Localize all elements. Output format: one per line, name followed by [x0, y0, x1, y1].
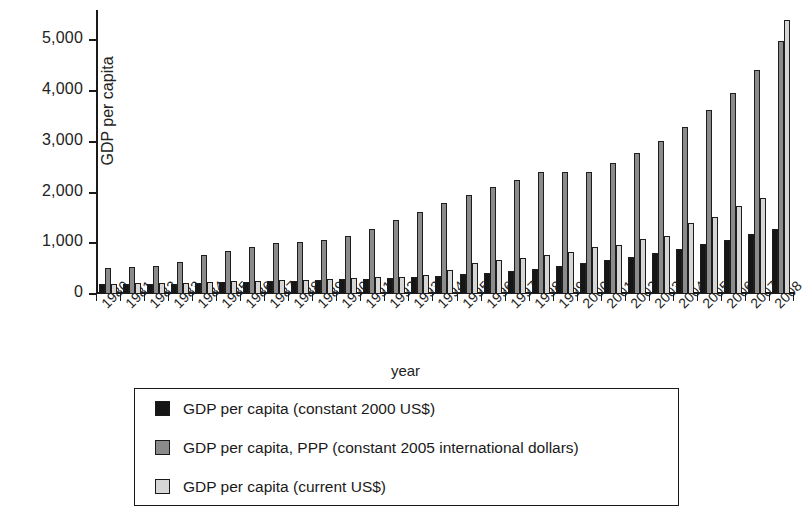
bar-group [460, 10, 478, 294]
y-axis-tick [89, 39, 96, 41]
bar [664, 236, 670, 294]
y-axis-tick-label: 5,000 [0, 29, 83, 47]
bar-group [435, 10, 453, 294]
bar [447, 270, 453, 294]
bar-group [532, 10, 550, 294]
bar [255, 281, 261, 294]
chart-legend: GDP per capita (constant 2000 US$) GDP p… [134, 388, 679, 506]
chart-figure: GDP per capita 01,0002,0003,0004,0005,00… [0, 0, 811, 510]
bar [351, 278, 357, 294]
bar-group [243, 10, 261, 294]
y-axis-tick-label: 3,000 [0, 131, 83, 149]
bar [399, 277, 405, 294]
y-axis-tick [89, 90, 96, 92]
bar-group [387, 10, 405, 294]
bar-group [315, 10, 333, 294]
bar-group [700, 10, 718, 294]
bar [423, 275, 429, 294]
bar-group [508, 10, 526, 294]
bar-group [748, 10, 766, 294]
bar-group [580, 10, 598, 294]
bar [568, 252, 574, 294]
legend-item: GDP per capita (constant 2000 US$) [135, 389, 678, 428]
bar-group [171, 10, 189, 294]
y-axis-tick-label: 4,000 [0, 80, 83, 98]
y-axis-tick [89, 293, 96, 295]
y-axis-tick-label: 2,000 [0, 182, 83, 200]
legend-item-label: GDP per capita, PPP (constant 2005 inter… [183, 439, 579, 457]
bar-group [772, 10, 790, 294]
bar-group [123, 10, 141, 294]
bar-group [724, 10, 742, 294]
bar [712, 217, 718, 294]
y-axis-tick [89, 242, 96, 244]
y-axis-tick-label: 0 [0, 283, 83, 301]
bar [135, 283, 141, 294]
bar [520, 258, 526, 295]
bar-group [267, 10, 285, 294]
bar-group [652, 10, 670, 294]
bar-group [628, 10, 646, 294]
bar-group [219, 10, 237, 294]
y-axis-tick [89, 141, 96, 143]
bar [183, 283, 189, 294]
legend-item-label: GDP per capita (constant 2000 US$) [183, 400, 435, 418]
bar [784, 20, 790, 294]
bar [159, 283, 165, 294]
bar [760, 198, 766, 294]
y-axis-tick-label: 1,000 [0, 232, 83, 250]
bar [231, 281, 237, 294]
bar [616, 245, 622, 294]
legend-item: GDP per capita, PPP (constant 2005 inter… [135, 428, 678, 467]
bar-group [484, 10, 502, 294]
bar [640, 239, 646, 294]
gray-swatch-icon [155, 440, 170, 455]
x-axis-tick [96, 294, 97, 301]
bar [592, 247, 598, 294]
light-gray-swatch-icon [155, 479, 170, 494]
bar [736, 206, 742, 294]
bar-group [195, 10, 213, 294]
bar [496, 260, 502, 294]
bar [111, 284, 117, 294]
y-axis-tick [89, 192, 96, 194]
bar-group [99, 10, 117, 294]
x-axis-title: year [0, 362, 811, 379]
bar [688, 223, 694, 295]
bar-group [363, 10, 381, 294]
bar-group [556, 10, 574, 294]
bar [375, 277, 381, 294]
legend-item-label: GDP per capita (current US$) [183, 478, 386, 496]
bar-group [604, 10, 622, 294]
bar [279, 280, 285, 294]
bar-group [339, 10, 357, 294]
bar-group [291, 10, 309, 294]
legend-item: GDP per capita (current US$) [135, 467, 678, 506]
bar [207, 282, 213, 294]
bar-group [147, 10, 165, 294]
bar [303, 280, 309, 294]
bar [472, 263, 478, 294]
bar [544, 255, 550, 294]
bar-group [676, 10, 694, 294]
black-swatch-icon [155, 401, 170, 416]
bar-group [411, 10, 429, 294]
bar [327, 279, 333, 294]
